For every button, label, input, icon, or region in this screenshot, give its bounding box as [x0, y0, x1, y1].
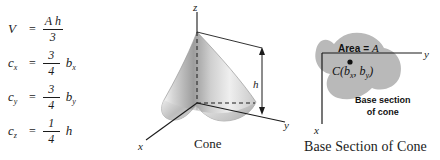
centroid-open-paren: C(	[332, 64, 344, 78]
equals-sign: =	[29, 90, 36, 105]
formula-cz-tail: h	[66, 123, 73, 139]
formula-cx-lhs: cx	[8, 55, 27, 71]
formula-cy-numerator: 3	[46, 83, 56, 96]
formula-cz-fraction: 1 4	[43, 117, 60, 144]
equals-sign: =	[29, 56, 36, 71]
formula-volume-fraction: A h 3	[43, 15, 63, 42]
cone-caption: Cone	[194, 136, 221, 152]
cone-x-axis-label: x	[138, 140, 143, 152]
formula-cz-symbol: c	[8, 123, 14, 138]
area-label: Area=A	[338, 42, 379, 54]
centroid-bx-subscript: x	[350, 71, 354, 80]
formula-cx: cx = 3 4 bx	[8, 46, 128, 80]
cone-height-label: h	[253, 78, 259, 90]
cone-drawing	[148, 0, 298, 140]
base-section-panel: Area=A C(bx, by) Base section of cone y …	[300, 0, 440, 160]
formula-list: V = A h 3 cx = 3 4 bx cy = 3 4	[8, 12, 128, 148]
centroid-by-subscript: y	[366, 71, 370, 80]
formula-cx-tail-subscript: x	[72, 63, 76, 72]
base-section-note-line2: of cone	[355, 106, 411, 118]
centroid-label: C(bx, by)	[332, 64, 373, 79]
area-equals-sign: =	[363, 43, 369, 54]
formula-cz-denominator: 4	[46, 132, 56, 145]
area-symbol: A	[372, 42, 379, 54]
formula-cx-fraction: 3 4	[43, 49, 60, 76]
formula-cy-tail: by	[66, 89, 76, 105]
base-y-axis-label: y	[424, 48, 429, 60]
formula-cy-lhs: cy	[8, 89, 27, 105]
formula-cy-fraction: 3 4	[43, 83, 60, 110]
height-arrow-down	[259, 107, 265, 115]
formula-cy-subscript: y	[14, 97, 18, 106]
centroid-by-symbol: b	[360, 64, 366, 78]
formula-cx-tail: bx	[66, 55, 76, 71]
cone-z-axis-label: z	[193, 1, 197, 13]
formula-cy-denominator: 4	[46, 98, 56, 111]
formula-cy: cy = 3 4 by	[8, 80, 128, 114]
formula-volume-denominator: 3	[48, 30, 58, 43]
formula-cz-subscript: z	[14, 131, 17, 140]
formula-cz-numerator: 1	[46, 117, 56, 130]
equals-sign: =	[29, 22, 36, 37]
formula-cy-tail-subscript: y	[72, 97, 76, 106]
cone-y-axis-label: y	[284, 119, 289, 131]
formula-volume: V = A h 3	[8, 12, 128, 46]
area-label-text: Area	[338, 43, 360, 54]
cone-properties-figure: V = A h 3 cx = 3 4 bx cy = 3 4	[0, 0, 440, 160]
formula-cz: cz = 1 4 h	[8, 114, 128, 148]
centroid-close-paren: )	[369, 64, 373, 78]
base-x-axis-label: x	[314, 124, 319, 136]
formula-cx-denominator: 4	[46, 64, 56, 77]
formula-volume-lhs: V	[8, 21, 27, 37]
formula-cx-subscript: x	[14, 63, 18, 72]
base-section-caption: Base Section of Cone	[304, 139, 427, 155]
base-section-note: Base section of cone	[355, 94, 411, 118]
equals-sign: =	[29, 124, 36, 139]
base-section-note-line1: Base section	[355, 94, 411, 106]
formula-cx-numerator: 3	[46, 49, 56, 62]
formula-cz-lhs: cz	[8, 123, 27, 139]
formula-cx-symbol: c	[8, 55, 14, 70]
height-arrow-up	[259, 47, 265, 55]
cone-diagram-panel: z y x h Cone	[148, 0, 298, 160]
formula-volume-numerator: A h	[43, 15, 63, 28]
formula-cy-symbol: c	[8, 89, 14, 104]
